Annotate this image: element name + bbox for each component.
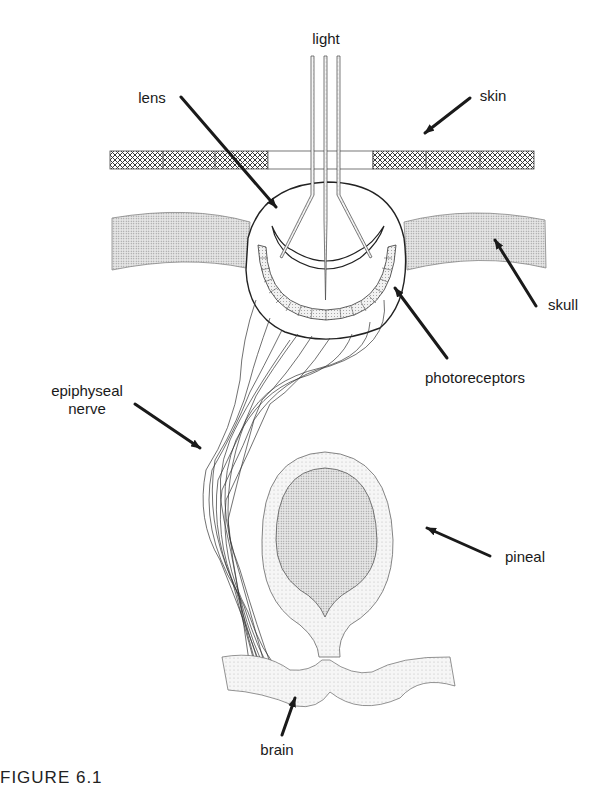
skin-arrow <box>425 98 470 133</box>
label-photoreceptors: photoreceptors <box>425 369 525 386</box>
labels: light lens skin skull photoreceptors epi… <box>51 30 578 758</box>
skin-layer <box>110 151 534 169</box>
label-nerve: nerve <box>68 400 106 417</box>
label-lens: lens <box>138 89 166 106</box>
brain <box>222 655 455 707</box>
pineal-organ <box>262 452 393 657</box>
figure-caption: FIGURE 6.1 <box>0 768 103 787</box>
label-light: light <box>312 30 340 47</box>
label-skin: skin <box>480 87 507 104</box>
label-epiphyseal: epiphyseal <box>51 382 123 399</box>
label-skull: skull <box>548 296 578 313</box>
epiphyseal-nerve-arrow <box>135 404 200 448</box>
photoreceptors-arrow <box>395 288 447 358</box>
label-pineal: pineal <box>505 548 545 565</box>
pineal-arrow <box>427 528 490 556</box>
label-brain: brain <box>260 741 293 758</box>
